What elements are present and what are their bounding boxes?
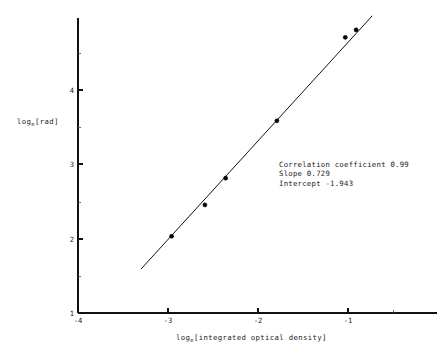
x-axis-label-rest: [integrated optical density] [194,333,327,342]
x-axis-ticks: -4 -3 -2 -1 [74,308,393,325]
statistics-annotation: Correlation coefficient 0.99 Slope 0.729… [279,160,409,188]
y-tick-label: 3 [70,160,74,169]
data-point [275,119,279,123]
x-axis-label-subscript: e [190,337,194,343]
chart-page: -4 -3 -2 -1 1 2 3 4 loge[rad] loge[integ… [0,0,442,353]
x-tick-label: -2 [254,316,263,325]
slope-text: Slope 0.729 [279,169,409,178]
data-point [203,203,207,207]
y-axis-ticks: 1 2 3 4 [70,53,83,318]
data-series-group [141,16,372,269]
y-axis-label-prefix: log [17,117,31,126]
y-axis-label-rest: [rad] [35,117,59,126]
x-axis-label: loge[integrated optical density] [176,333,327,342]
x-tick-label: -1 [344,316,353,325]
y-tick-label: 1 [70,309,74,318]
data-point [224,176,228,180]
data-point [354,28,358,32]
intercept-text: Intercept -1.943 [279,179,409,188]
data-point [343,35,347,39]
x-tick-label: -4 [74,316,83,325]
correlation-coefficient-text: Correlation coefficient 0.99 [279,160,409,169]
y-tick-label: 4 [70,86,74,95]
y-axis-label: loge[rad] [17,117,59,126]
x-axis-label-prefix: log [176,333,190,342]
data-point [170,234,174,238]
regression-fit-line [141,16,372,269]
y-tick-label: 2 [70,235,74,244]
x-tick-label: -3 [164,316,173,325]
y-axis-label-subscript: e [31,121,35,127]
